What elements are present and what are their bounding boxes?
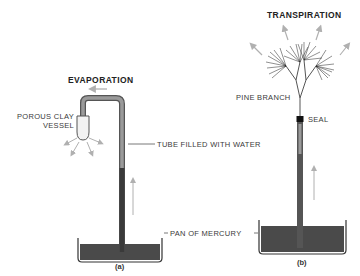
panel-b-apparatus [252, 28, 348, 254]
pine-needles [266, 42, 334, 80]
caption-a: (a) [115, 262, 124, 271]
transpiration-title: TRANSPIRATION [267, 10, 341, 20]
evaporation-title: EVAPORATION [68, 75, 133, 85]
vessel-label-line2: VESSEL [6, 121, 74, 130]
caption-b: (b) [297, 258, 307, 267]
pan-label: PAN OF MERCURY [170, 229, 241, 238]
mercury-column-a [120, 168, 125, 252]
seal [297, 116, 304, 122]
vessel-label-line1: POROUS CLAY [6, 112, 74, 121]
porous-clay-vessel [77, 116, 89, 140]
pine-branch-label: PINE BRANCH [236, 93, 291, 102]
panel-a-apparatus [66, 89, 168, 262]
seal-label: SEAL [308, 115, 328, 124]
tube-label: TUBE FILLED WITH WATER [157, 140, 261, 149]
